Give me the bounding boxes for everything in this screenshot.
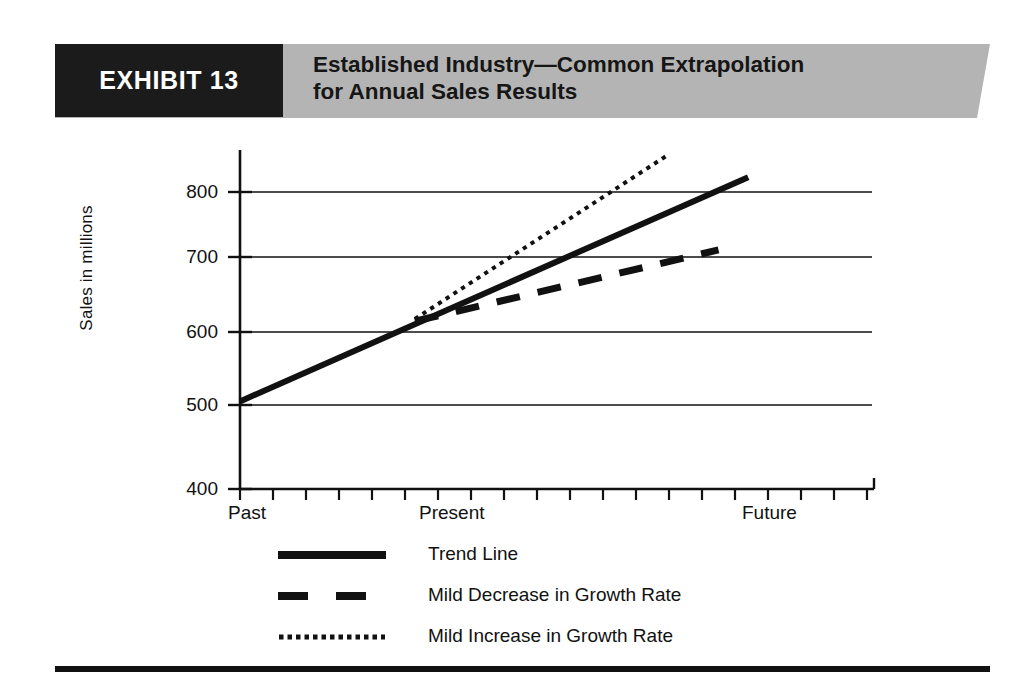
series-line-trend-line [240,177,748,401]
exhibit-number-label: EXHIBIT 13 [99,66,238,95]
x-tick-marks [240,489,867,500]
x-tick-label-present: Present [419,502,484,524]
y-tick-marks [228,192,252,489]
x-tick-label-past: Past [228,502,266,524]
exhibit-title: Established Industry—Common Extrapolatio… [313,52,953,105]
legend-swatch-solid-icon [278,550,386,560]
exhibit-title-line-2: for Annual Sales Results [313,79,953,106]
exhibit-number-badge: EXHIBIT 13 [55,44,283,117]
gridlines [240,192,872,405]
legend-label-trend-line: Trend Line [428,543,518,565]
legend-swatch-dotted-icon [278,632,386,642]
y-tick-label-800: 800 [158,181,218,203]
x-tick-label-future: Future [742,502,797,524]
legend-swatch-dashed-icon [278,591,386,601]
y-axis-title: Sales in millions [77,168,97,368]
bottom-divider [55,666,990,672]
exhibit-title-line-1: Established Industry—Common Extrapolatio… [313,52,953,79]
legend-label-mild-increase: Mild Increase in Growth Rate [428,625,673,647]
y-tick-label-600: 600 [158,321,218,343]
exhibit-header: EXHIBIT 13 Established Industry—Common E… [55,44,990,118]
series-line-mild-increase-in-growth-rate [415,156,666,319]
y-tick-label-700: 700 [158,246,218,268]
y-tick-label-500: 500 [158,394,218,416]
legend-label-mild-decrease: Mild Decrease in Growth Rate [428,584,681,606]
y-tick-label-400: 400 [158,478,218,500]
data-series-group [240,156,748,401]
series-line-mild-decrease-in-growth-rate [415,250,719,321]
